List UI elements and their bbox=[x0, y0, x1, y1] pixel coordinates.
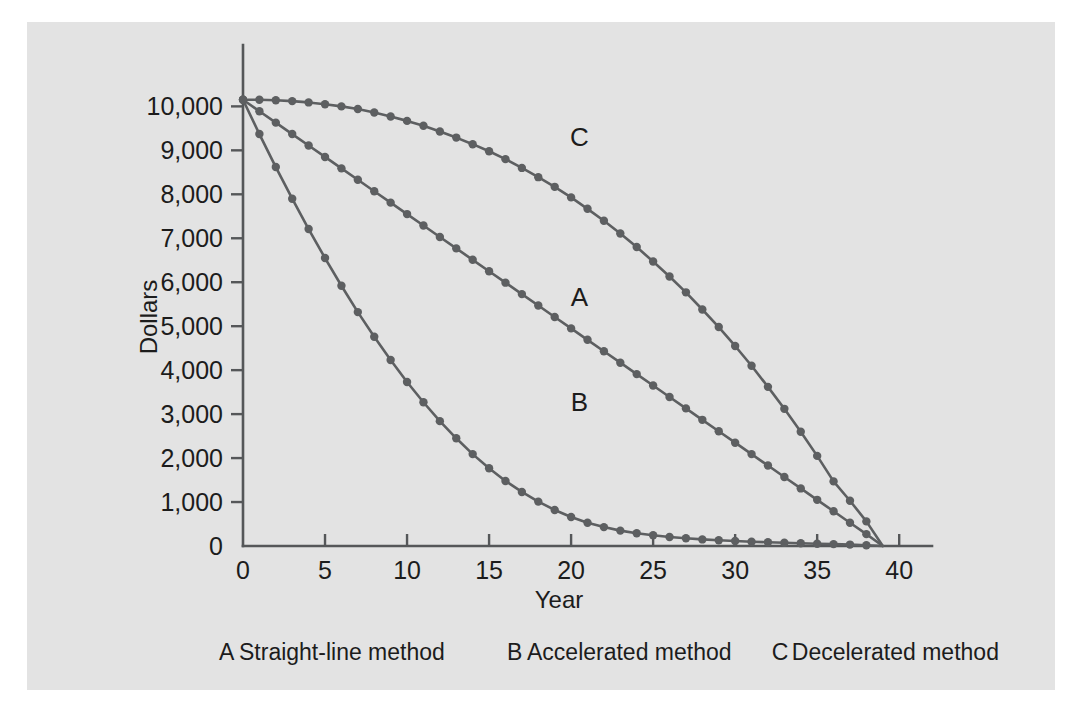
series-point-B bbox=[829, 540, 837, 548]
series-point-C bbox=[665, 272, 673, 280]
series-point-A bbox=[518, 290, 526, 298]
series-point-B bbox=[633, 529, 641, 537]
series-point-C bbox=[419, 122, 427, 130]
y-tick-label: 7,000 bbox=[160, 224, 223, 252]
series-point-B bbox=[321, 254, 329, 262]
series-point-B bbox=[534, 497, 542, 505]
series-point-C bbox=[354, 105, 362, 113]
x-tick-label: 25 bbox=[639, 556, 667, 584]
series-point-B bbox=[354, 308, 362, 316]
series-point-A bbox=[337, 164, 345, 172]
series-point-C bbox=[304, 98, 312, 106]
series-point-A bbox=[731, 438, 739, 446]
series-point-A bbox=[370, 187, 378, 195]
series-point-A bbox=[386, 198, 394, 206]
series-point-B bbox=[665, 533, 673, 541]
x-tick-label: 5 bbox=[318, 556, 332, 584]
legend-label-C: Decelerated method bbox=[792, 639, 999, 665]
series-point-A bbox=[583, 336, 591, 344]
series-point-B bbox=[862, 541, 870, 549]
series-point-A bbox=[485, 267, 493, 275]
series-point-C bbox=[633, 243, 641, 251]
series-point-C bbox=[239, 96, 247, 104]
series-point-C bbox=[616, 229, 624, 237]
series-point-A bbox=[665, 393, 673, 401]
series-point-B bbox=[386, 356, 394, 364]
y-tick-label: 2,000 bbox=[160, 444, 223, 472]
series-point-C bbox=[518, 164, 526, 172]
chart-legend: AStraight-line methodBAccelerated method… bbox=[219, 639, 999, 665]
curve-label-A: A bbox=[571, 282, 589, 312]
series-point-C bbox=[862, 517, 870, 525]
series-point-B bbox=[583, 519, 591, 527]
series-point-C bbox=[583, 205, 591, 213]
series-point-B bbox=[403, 378, 411, 386]
series-point-B bbox=[337, 282, 345, 290]
series-group bbox=[239, 96, 883, 550]
y-tick-label: 8,000 bbox=[160, 180, 223, 208]
series-point-A bbox=[616, 358, 624, 366]
series-point-C bbox=[337, 102, 345, 110]
x-tick-label: 40 bbox=[885, 556, 913, 584]
series-point-A bbox=[829, 507, 837, 515]
series-point-C bbox=[272, 96, 280, 104]
series-point-C bbox=[764, 383, 772, 391]
series-point-C bbox=[698, 305, 706, 313]
series-point-C bbox=[600, 216, 608, 224]
series-point-A bbox=[780, 473, 788, 481]
x-axis-title: Year bbox=[535, 586, 584, 613]
series-point-C bbox=[321, 100, 329, 108]
legend-label-A: Straight-line method bbox=[239, 639, 445, 665]
series-point-C bbox=[731, 342, 739, 350]
series-point-B bbox=[255, 130, 263, 138]
figure-panel: 01,0002,0003,0004,0005,0006,0007,0008,00… bbox=[27, 22, 1055, 690]
series-point-B bbox=[797, 539, 805, 547]
x-axis-tick-labels: 0510152025303540 bbox=[236, 556, 913, 584]
series-point-B bbox=[698, 535, 706, 543]
series-point-A bbox=[764, 461, 772, 469]
series-point-B bbox=[272, 163, 280, 171]
series-point-A bbox=[272, 118, 280, 126]
series-point-C bbox=[797, 428, 805, 436]
series-point-A bbox=[550, 313, 558, 321]
series-point-B bbox=[452, 434, 460, 442]
series-point-C bbox=[485, 147, 493, 155]
y-tick-label: 9,000 bbox=[160, 136, 223, 164]
series-point-B bbox=[780, 539, 788, 547]
series-point-C bbox=[386, 112, 394, 120]
series-point-A bbox=[600, 347, 608, 355]
x-tick-label: 0 bbox=[236, 556, 250, 584]
y-axis-ticks bbox=[231, 106, 243, 502]
x-tick-label: 15 bbox=[475, 556, 503, 584]
series-point-C bbox=[829, 477, 837, 485]
series-point-C bbox=[501, 155, 509, 163]
legend-key-C: C bbox=[772, 639, 789, 665]
series-point-A bbox=[534, 301, 542, 309]
y-tick-label: 5,000 bbox=[160, 312, 223, 340]
series-point-B bbox=[600, 523, 608, 531]
series-point-A bbox=[846, 519, 854, 527]
series-point-B bbox=[747, 537, 755, 545]
series-point-C bbox=[403, 117, 411, 125]
series-point-B bbox=[731, 537, 739, 545]
series-point-B bbox=[370, 333, 378, 341]
series-point-C bbox=[436, 127, 444, 135]
series-point-C bbox=[682, 288, 690, 296]
chart-stage: 01,0002,0003,0004,0005,0006,0007,0008,00… bbox=[27, 22, 1055, 690]
series-point-A bbox=[321, 153, 329, 161]
series-point-B bbox=[304, 225, 312, 233]
series-point-A bbox=[649, 381, 657, 389]
series-point-B bbox=[485, 464, 493, 472]
x-tick-label: 10 bbox=[393, 556, 421, 584]
series-point-A bbox=[419, 221, 427, 229]
series-point-B bbox=[649, 531, 657, 539]
series-point-A bbox=[468, 256, 476, 264]
y-tick-label: 4,000 bbox=[160, 356, 223, 384]
series-point-A bbox=[715, 427, 723, 435]
depreciation-line-chart: 01,0002,0003,0004,0005,0006,0007,0008,00… bbox=[27, 22, 1055, 690]
series-point-B bbox=[288, 195, 296, 203]
y-tick-label: 6,000 bbox=[160, 268, 223, 296]
series-point-B bbox=[550, 506, 558, 514]
y-axis-title: Dollars bbox=[135, 280, 162, 355]
series-point-A bbox=[698, 416, 706, 424]
